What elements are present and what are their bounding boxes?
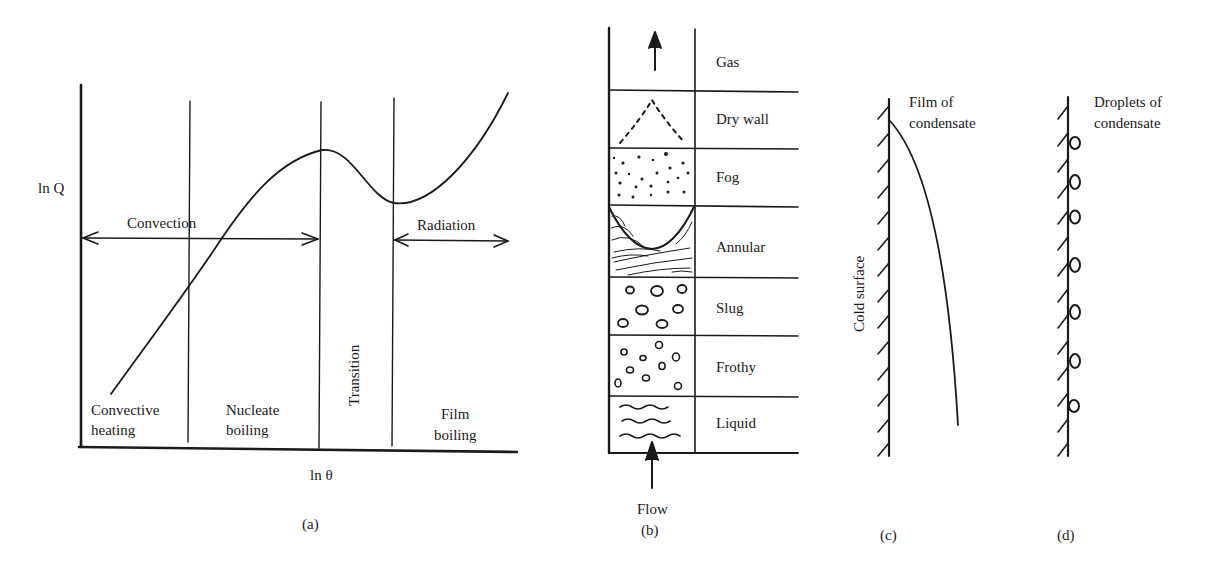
regime-dry-wall: Dry wall: [716, 111, 769, 128]
region-nucleate-boiling-line1: Nucleate: [226, 402, 279, 419]
film-label-line2: condensate: [909, 115, 976, 132]
regime-gas: Gas: [716, 54, 739, 71]
droplet-label-line1: Droplets of: [1094, 94, 1162, 111]
gas-up-arrow-icon: [649, 32, 661, 70]
cold-surface-label: Cold surface: [851, 256, 868, 332]
annular-film-hatch: [611, 216, 692, 275]
region-convective-heating-line1: Convective: [91, 402, 159, 419]
regime-annular: Annular: [716, 239, 765, 256]
regime-fog: Fog: [716, 169, 739, 186]
droplet-label-line2: condensate: [1094, 115, 1161, 132]
convection-label: Convection: [127, 215, 196, 232]
condensate-droplets-icon: [1069, 137, 1080, 412]
condensate-film-curve: [890, 121, 958, 425]
radiation-label: Radiation: [417, 217, 475, 234]
region-film-boiling-line1: Film: [441, 406, 469, 423]
caption-b: (b): [641, 522, 659, 539]
film-label-line1: Film of: [909, 94, 954, 111]
radiation-arrow: [394, 234, 508, 247]
convection-arrow: [82, 232, 318, 245]
flow-label: Flow: [637, 501, 668, 518]
annular-core-icon: [609, 207, 694, 249]
frothy-bubbles-icon: [615, 342, 682, 390]
regime-slug: Slug: [716, 300, 744, 317]
liquid-waves-icon: [620, 405, 680, 438]
regime-frothy: Frothy: [716, 359, 756, 376]
panel-a-axes: [79, 85, 517, 452]
caption-c: (c): [880, 527, 897, 544]
boiling-curve: [111, 93, 508, 394]
dry-wall-cone-icon: [620, 100, 685, 143]
cold-surface-wall-d: [1058, 97, 1068, 456]
flow-arrow-icon: [646, 442, 658, 488]
region-film-boiling-line2: boiling: [434, 427, 477, 444]
y-axis-label: ln Q: [38, 180, 64, 197]
fog-dots-icon: [613, 152, 690, 199]
flow-regime-column: [609, 28, 798, 453]
region-transition: Transition: [346, 345, 363, 406]
x-axis-label: ln θ: [310, 467, 333, 484]
regime-liquid: Liquid: [716, 415, 756, 432]
region-nucleate-boiling-line2: boiling: [226, 422, 269, 439]
figure-canvas: [0, 0, 1227, 568]
slug-bubbles-icon: [618, 285, 687, 328]
cold-surface-wall-c: [878, 99, 889, 456]
region-convective-heating-line2: heating: [91, 422, 135, 439]
caption-d: (d): [1057, 527, 1075, 544]
panel-a-region-dividers: [188, 98, 394, 448]
caption-a: (a): [302, 516, 319, 533]
